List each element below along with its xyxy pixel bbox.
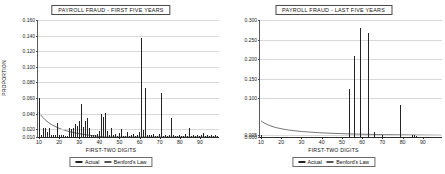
y-tick-mark (258, 79, 260, 80)
x-tick-label: 90 (420, 140, 426, 145)
bar (205, 136, 206, 137)
bar (207, 135, 208, 137)
legend-item-actual: Actual (298, 160, 322, 165)
bar (103, 117, 104, 137)
gridline (38, 51, 219, 52)
bar (382, 135, 383, 137)
chart-legend: Actual Benford's Law (69, 157, 152, 167)
y-tick-label: 0.060 (22, 96, 35, 101)
gridline (260, 59, 442, 60)
y-tick-mark (258, 40, 260, 41)
y-tick-label: 0.150 (244, 76, 257, 81)
bar (189, 128, 190, 137)
bar (374, 132, 375, 137)
bar (209, 136, 210, 137)
bar (197, 135, 198, 137)
x-tick-label: 40 (96, 140, 102, 145)
gridline (260, 137, 442, 138)
bar (47, 132, 48, 137)
bar (173, 135, 174, 137)
bar (193, 135, 194, 137)
bar (55, 135, 56, 137)
y-tick-label: 0.040 (22, 111, 35, 116)
bar (412, 135, 413, 137)
bar (147, 135, 148, 137)
bar (59, 135, 60, 137)
benford-law-curve (38, 20, 219, 137)
x-tick-label: 40 (319, 140, 325, 145)
bar (187, 136, 188, 137)
bar (93, 135, 94, 137)
x-tick-label: 50 (117, 140, 123, 145)
bar (416, 136, 417, 137)
bar (123, 136, 124, 137)
bar (57, 123, 58, 137)
bar (201, 135, 202, 137)
benford-line-icon (104, 161, 111, 163)
bar (101, 114, 102, 137)
bar (69, 128, 70, 137)
chart-title: PAYROLL FRAUD - FIRST FIVE YEARS (51, 5, 170, 15)
bar (133, 134, 134, 137)
gridline (38, 137, 219, 138)
bar (41, 135, 42, 137)
bar (167, 136, 168, 137)
bar (175, 136, 176, 137)
bar (105, 113, 106, 137)
bar (67, 136, 68, 137)
benford-line-icon (327, 161, 334, 163)
y-tick-mark (36, 137, 38, 138)
x-tick-label: 10 (36, 140, 42, 145)
bar (217, 136, 218, 137)
bar (91, 135, 92, 137)
x-tick-label: 60 (137, 140, 143, 145)
bar (97, 134, 98, 137)
x-axis-title: FIRST-TWO DIGITS (308, 148, 358, 153)
bar (360, 28, 361, 137)
legend-item-benford: Benford's Law (327, 160, 369, 165)
bar (111, 128, 112, 137)
bar (163, 136, 164, 137)
y-tick-label: 0.020 (22, 127, 35, 132)
legend-label-actual: Actual (85, 160, 99, 165)
bar (199, 136, 200, 137)
gridline (260, 20, 442, 21)
x-tick-label: 20 (278, 140, 284, 145)
x-tick-label: 80 (177, 140, 183, 145)
bar (181, 136, 182, 137)
figure-pair: PAYROLL FRAUD - FIRST FIVE YEARS PROPORT… (0, 0, 445, 174)
bar (43, 128, 44, 137)
bar (95, 135, 96, 137)
bar (183, 136, 184, 137)
legend-label-benford: Benford's Law (336, 160, 369, 165)
bar (113, 135, 114, 137)
bar (79, 121, 80, 137)
gridline (38, 20, 219, 21)
y-tick-label: 0.160 (22, 18, 35, 23)
bar (127, 132, 128, 137)
bar (191, 136, 192, 137)
x-axis-title: FIRST-TWO DIGITS (86, 148, 136, 153)
bar (149, 135, 150, 137)
y-tick-label: 0.100 (22, 64, 35, 69)
y-tick-mark (36, 36, 38, 37)
bar (195, 136, 196, 137)
y-tick-mark (36, 67, 38, 68)
bar (129, 136, 130, 137)
y-tick-label: 0.120 (22, 49, 35, 54)
bar (87, 118, 88, 138)
legend-item-benford: Benford's Law (104, 160, 146, 165)
bar (165, 135, 166, 137)
bar (49, 128, 50, 137)
bar (107, 131, 108, 137)
bar (115, 134, 116, 137)
bar (119, 133, 120, 137)
bar (63, 135, 64, 137)
bar (261, 135, 262, 137)
bar (137, 135, 138, 137)
bar (143, 130, 144, 137)
gridline (38, 98, 219, 99)
plot-area: 0.3000.2500.2000.1500.1000.0050.00010203… (259, 20, 442, 138)
bar (157, 136, 158, 137)
gridline (260, 40, 442, 41)
